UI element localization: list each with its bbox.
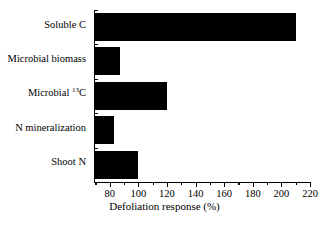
category-label-n-mineralization: N mineralization [0, 122, 86, 133]
bar-row [94, 47, 310, 75]
bar-soluble-c [94, 13, 296, 41]
plot-area: 80 100 120 140 160 180 200 220 [94, 10, 310, 182]
bar-row [94, 151, 310, 179]
x-tick-label-220: 220 [290, 188, 329, 200]
x-axis-line [94, 182, 310, 183]
bar-n-mineralization [94, 116, 114, 144]
bar-row [94, 13, 310, 41]
x-axis-title: Defoliation response (%) [0, 200, 329, 212]
y-axis-category-labels: Soluble C Microbial biomass Microbial 13… [0, 10, 90, 182]
y-axis-tick [94, 113, 98, 114]
x-axis-minor-tick [296, 182, 297, 185]
x-axis-minor-tick [181, 182, 182, 185]
bar-microbial-13c [94, 82, 167, 110]
x-axis-minor-tick [124, 182, 125, 185]
x-axis-major-tick [138, 182, 139, 187]
x-axis-major-tick [310, 182, 311, 187]
x-axis-minor-tick [153, 182, 154, 185]
y-axis-tick [94, 10, 98, 11]
x-axis-major-tick [224, 182, 225, 187]
y-axis-tick [94, 44, 98, 45]
x-axis-major-tick [281, 182, 282, 187]
y-axis-tick [94, 79, 98, 80]
category-label-microbial-13c: Microbial 13C [0, 87, 86, 98]
x-axis-minor-tick [95, 182, 96, 185]
category-label-soluble-c: Soluble C [0, 19, 86, 30]
x-axis-major-tick [167, 182, 168, 187]
x-axis-major-tick [253, 182, 254, 187]
chart-figure: Soluble C Microbial biomass Microbial 13… [0, 0, 329, 225]
y-axis-tick [94, 148, 98, 149]
bar-row [94, 116, 310, 144]
bar-row [94, 82, 310, 110]
category-label-shoot-n: Shoot N [0, 156, 86, 167]
x-axis-minor-tick [210, 182, 211, 185]
x-axis-minor-tick [267, 182, 268, 185]
x-axis-minor-tick [238, 182, 239, 185]
bar-shoot-n [94, 151, 138, 179]
category-label-microbial-biomass: Microbial biomass [0, 53, 86, 64]
x-axis-major-tick [110, 182, 111, 187]
x-axis-major-tick [196, 182, 197, 187]
bar-microbial-biomass [94, 47, 120, 75]
